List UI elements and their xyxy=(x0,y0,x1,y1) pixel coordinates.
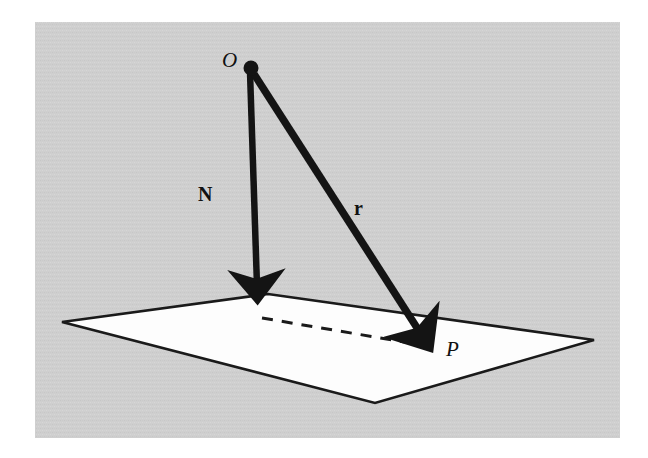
label-origin: O xyxy=(222,50,237,71)
label-position: r xyxy=(354,198,363,218)
vector-plane-diagram xyxy=(0,0,648,458)
figure-panel: O N r P xyxy=(0,0,648,458)
figure-page: O N r P xyxy=(0,0,648,458)
label-normal: N xyxy=(198,184,212,204)
origin-point-dot xyxy=(244,61,259,76)
label-point-p: P xyxy=(446,339,459,360)
